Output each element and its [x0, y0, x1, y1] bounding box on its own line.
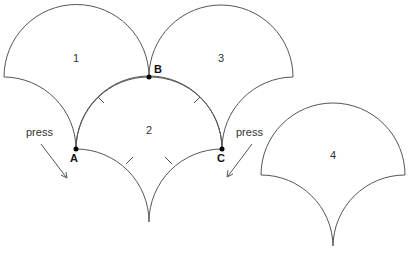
press-label-right: press	[236, 126, 263, 138]
shape-4: 4	[261, 103, 405, 246]
point-b-label: B	[154, 63, 162, 75]
point-c-dot	[220, 147, 225, 152]
press-annotation-left: press	[26, 126, 67, 178]
point-b-dot	[147, 75, 152, 80]
tick-mark	[194, 97, 200, 103]
shape-2-label: 2	[146, 124, 152, 136]
shape-1-label: 1	[73, 52, 79, 64]
press-annotation-right: press	[227, 126, 263, 177]
tick-mark	[126, 157, 133, 164]
press-label-left: press	[26, 126, 53, 138]
point-c-label: C	[217, 152, 225, 164]
tick-mark	[165, 157, 172, 164]
tessellation-diagram: 1 3 2 4 A B C press press	[0, 0, 415, 255]
arrow-icon	[41, 144, 66, 177]
arrow-icon	[228, 144, 252, 176]
point-a-label: A	[70, 152, 78, 164]
shape-3-label: 3	[218, 52, 224, 64]
point-a-dot	[74, 147, 79, 152]
tick-mark	[98, 97, 104, 103]
point-a: A	[70, 147, 79, 165]
shape-3: 3	[149, 5, 293, 149]
shape-4-label: 4	[330, 149, 336, 161]
